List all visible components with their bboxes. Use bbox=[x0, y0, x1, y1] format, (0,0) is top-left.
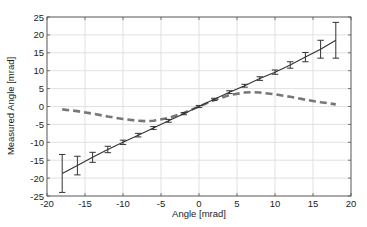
y-tick-label: -10 bbox=[30, 137, 44, 148]
error-bar bbox=[165, 119, 171, 122]
y-tick-label: 10 bbox=[33, 65, 44, 76]
x-tick-label: 5 bbox=[234, 198, 239, 209]
error-bar bbox=[241, 84, 247, 87]
x-tick-label: -10 bbox=[116, 198, 130, 209]
y-tick-label: 20 bbox=[33, 29, 44, 40]
x-tick-label: -15 bbox=[78, 198, 92, 209]
x-tick-label: 20 bbox=[346, 198, 357, 209]
y-tick-label: 0 bbox=[39, 101, 44, 112]
y-tick-label: -15 bbox=[30, 155, 44, 166]
x-tick-label: 10 bbox=[270, 198, 281, 209]
y-tick-label: -25 bbox=[30, 191, 44, 202]
x-tick-label: 15 bbox=[308, 198, 319, 209]
error-bar bbox=[150, 127, 156, 130]
y-tick-label: -20 bbox=[30, 173, 44, 184]
y-axis-label: Measured Angle [mrad] bbox=[5, 57, 16, 155]
error-bar bbox=[105, 146, 111, 152]
error-bar bbox=[226, 91, 232, 94]
error-bar bbox=[302, 52, 308, 61]
y-tick-label: 5 bbox=[39, 83, 44, 94]
y-tick-label: 15 bbox=[33, 47, 44, 58]
x-tick-label: -5 bbox=[157, 198, 165, 209]
y-tick-label: -5 bbox=[36, 119, 44, 130]
y-tick-label: 25 bbox=[33, 12, 44, 23]
error-bar bbox=[89, 152, 95, 162]
chart: -20-15-10-505101520 -25-20-15-10-5051015… bbox=[0, 0, 367, 227]
x-axis-label: Angle [mrad] bbox=[172, 208, 226, 219]
error-bar bbox=[317, 40, 323, 58]
error-bar bbox=[74, 156, 80, 175]
error-bar bbox=[287, 62, 293, 68]
